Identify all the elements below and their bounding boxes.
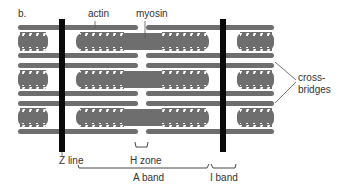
cross-bridges bbox=[240, 123, 272, 127]
actin-filament bbox=[18, 63, 138, 68]
filament-row-3 bbox=[18, 101, 274, 134]
actin-filament bbox=[146, 53, 274, 58]
i-band-bracket bbox=[211, 164, 236, 168]
panel-label: b. bbox=[18, 8, 26, 19]
actin-label: actin bbox=[88, 8, 109, 19]
cross-bridges bbox=[20, 70, 46, 74]
cross-bridges-leader-top bbox=[275, 62, 296, 80]
cross-bridges-label-line1: cross- bbox=[298, 72, 325, 83]
cross-bridges bbox=[80, 85, 124, 89]
filament-row-1 bbox=[18, 25, 274, 58]
cross-bridges bbox=[240, 47, 272, 51]
cross-bridges bbox=[240, 32, 272, 36]
actin-filament bbox=[146, 101, 274, 106]
cross-bridges-label-line2: bridges bbox=[298, 84, 331, 95]
actin-filament bbox=[18, 25, 138, 30]
cross-bridges bbox=[20, 85, 46, 89]
z-line-left bbox=[59, 19, 65, 152]
actin-filament bbox=[18, 129, 138, 134]
cross-bridges bbox=[80, 70, 124, 74]
cross-bridges bbox=[240, 85, 272, 89]
actin-filament bbox=[146, 129, 274, 134]
cross-bridges bbox=[20, 123, 46, 127]
actin-filament bbox=[18, 53, 138, 58]
cross-bridges bbox=[20, 32, 46, 36]
z-line-right bbox=[220, 19, 226, 152]
cross-bridges bbox=[20, 108, 46, 112]
actin-filament bbox=[18, 101, 138, 106]
h-zone-label: H zone bbox=[130, 155, 162, 166]
cross-bridges bbox=[162, 70, 206, 74]
cross-bridges bbox=[162, 85, 206, 89]
cross-bridges bbox=[162, 123, 206, 127]
a-band-label: A band bbox=[133, 172, 164, 183]
z-line-label: Z line bbox=[59, 155, 83, 166]
cross-bridges-leader-bottom bbox=[275, 82, 296, 103]
h-zone-bracket bbox=[135, 142, 148, 147]
actin-filament bbox=[146, 63, 274, 68]
cross-bridges bbox=[80, 108, 124, 112]
cross-bridges bbox=[162, 108, 206, 112]
cross-bridges bbox=[80, 123, 124, 127]
cross-bridges bbox=[80, 32, 124, 36]
i-band-label: I band bbox=[210, 172, 238, 183]
cross-bridges bbox=[162, 47, 206, 51]
cross-bridges bbox=[20, 47, 46, 51]
actin-filament bbox=[146, 25, 274, 30]
cross-bridges bbox=[80, 47, 124, 51]
actin-filament bbox=[18, 91, 138, 96]
cross-bridges bbox=[162, 32, 206, 36]
cross-bridges bbox=[240, 70, 272, 74]
myosin-label: myosin bbox=[136, 8, 168, 19]
actin-filament bbox=[146, 91, 274, 96]
filament-row-2 bbox=[18, 63, 274, 96]
cross-bridges bbox=[240, 108, 272, 112]
